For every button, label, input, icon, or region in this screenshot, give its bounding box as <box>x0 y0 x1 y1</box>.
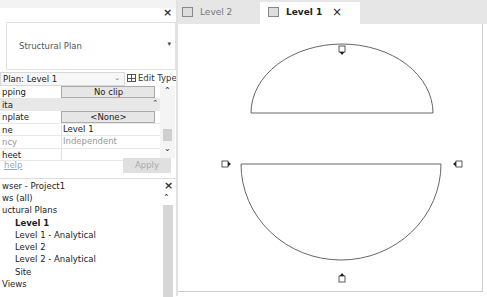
tree-node-level-1-analytical[interactable]: Level 1 - Analytical <box>0 229 96 241</box>
chevron-down-icon[interactable]: ▾ <box>167 40 171 48</box>
edit-type-icon <box>127 74 136 82</box>
plan-view-icon <box>268 7 279 17</box>
property-key: pping <box>2 87 26 97</box>
collapse-icon[interactable]: ⌃ <box>152 99 158 107</box>
plan-drawing <box>178 24 483 292</box>
lower-semicircle-shape[interactable] <box>241 164 441 260</box>
crop-button[interactable]: No clip <box>61 86 155 98</box>
tab-close-icon[interactable]: × <box>332 2 342 22</box>
property-section-identity[interactable]: ita ⌃ <box>0 99 160 112</box>
tree-node-site[interactable]: Site <box>0 266 96 278</box>
scroll-up-icon[interactable]: ⌃ <box>163 193 170 202</box>
browser-tree: ws (all) uctural Plans Level 1 Level 1 -… <box>0 192 96 290</box>
view-name-field[interactable]: Level 1 <box>61 124 155 136</box>
type-selector-label: Structural Plan <box>19 41 82 51</box>
drawing-canvas[interactable] <box>178 24 483 292</box>
browser-scrollbar[interactable]: ⌃ <box>162 193 174 297</box>
tab-level-1[interactable]: Level 1 × <box>260 2 360 24</box>
property-row-dependency: ncy Independent <box>0 136 160 149</box>
plan-view-icon <box>182 7 193 17</box>
edit-type-label: Edit Type <box>138 73 177 83</box>
property-key: nplate <box>2 112 29 122</box>
instance-filter-dropdown[interactable]: Plan: Level 1 ⌄ <box>0 72 125 86</box>
elevation-marker-top-icon[interactable] <box>339 46 345 55</box>
project-browser-close-icon[interactable]: × <box>164 179 173 192</box>
properties-header <box>0 0 177 8</box>
type-selector[interactable]: Structural Plan ▾ <box>6 22 176 70</box>
scroll-down-icon[interactable]: ⌄ <box>164 144 171 153</box>
project-browser: wser - Project1 × ws (all) uctural Plans… <box>0 178 177 296</box>
project-browser-title: wser - Project1 <box>2 181 65 191</box>
tab-label: Level 2 <box>200 7 232 17</box>
view-template-button[interactable]: <None> <box>61 111 155 123</box>
scroll-up-icon[interactable]: ⌃ <box>164 86 171 95</box>
property-key: ne <box>2 125 13 135</box>
instance-filter-value: Plan: Level 1 <box>3 74 57 84</box>
tree-node-level-2[interactable]: Level 2 <box>0 241 96 253</box>
tab-level-2[interactable]: Level 2 <box>178 2 258 24</box>
elevation-marker-right-icon[interactable] <box>453 161 462 167</box>
tree-node-structural-plans[interactable]: uctural Plans <box>0 204 96 216</box>
view-tab-bar: Level 2 Level 1 × <box>178 0 487 24</box>
dependency-value: Independent <box>61 136 155 148</box>
properties-grid: pping No clip ita ⌃ nplate <None> ne Lev… <box>0 86 160 161</box>
section-label: ita <box>2 100 13 110</box>
property-row-crop: pping No clip <box>0 86 160 99</box>
tree-node-views-all[interactable]: ws (all) <box>0 192 96 204</box>
properties-close-icon[interactable]: × <box>163 6 172 19</box>
tree-node-level-2-analytical[interactable]: Level 2 - Analytical <box>0 253 96 265</box>
scroll-thumb[interactable] <box>163 129 172 141</box>
tree-node-3d-views[interactable]: Views <box>0 278 96 290</box>
property-row-template: nplate <None> <box>0 111 160 124</box>
edit-type-button[interactable]: Edit Type <box>127 73 177 83</box>
property-key: ncy <box>2 137 17 147</box>
instance-row: Plan: Level 1 ⌄ Edit Type <box>0 72 177 86</box>
chevron-down-icon: ⌄ <box>114 74 120 82</box>
elevation-marker-bottom-icon[interactable] <box>339 273 345 282</box>
left-panel: × Structural Plan ▾ Plan: Level 1 ⌄ Edit… <box>0 0 177 296</box>
tab-label: Level 1 <box>286 7 322 17</box>
scroll-thumb[interactable] <box>163 205 173 297</box>
tree-node-level-1[interactable]: Level 1 <box>0 217 96 229</box>
elevation-marker-left-icon[interactable] <box>222 161 231 167</box>
property-row-name: ne Level 1 <box>0 124 160 137</box>
apply-button[interactable]: Apply <box>123 158 171 173</box>
property-key: heet <box>2 150 21 160</box>
properties-help-link[interactable]: help <box>4 160 22 170</box>
properties-scrollbar[interactable]: ⌃ ⌄ <box>160 86 175 158</box>
